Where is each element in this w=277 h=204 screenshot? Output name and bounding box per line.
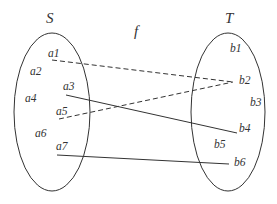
element-a5: a5 <box>56 105 68 117</box>
element-b4: b4 <box>239 122 251 134</box>
function-label: f <box>134 23 140 39</box>
set-t-ellipse <box>191 33 265 191</box>
element-a3: a3 <box>63 80 75 92</box>
element-a4: a4 <box>25 92 37 104</box>
element-b3: b3 <box>250 96 262 108</box>
mapping-a1-b2 <box>52 60 233 82</box>
element-a1: a1 <box>48 47 60 59</box>
mapping-a3-b4 <box>66 95 237 133</box>
element-b6: b6 <box>234 156 246 168</box>
element-a2: a2 <box>30 65 42 77</box>
set-s-title: S <box>46 10 54 26</box>
element-b5: b5 <box>214 138 226 150</box>
element-a6: a6 <box>35 127 47 139</box>
element-a7: a7 <box>56 140 69 152</box>
element-b2: b2 <box>239 74 251 86</box>
element-b1: b1 <box>230 42 242 54</box>
set-t-title: T <box>225 10 235 26</box>
function-mapping-diagram: S T f a1 a2 a3 a4 a5 a6 a7 b1 b2 b3 b4 b… <box>0 0 277 204</box>
mapping-a5-b2 <box>59 82 233 119</box>
